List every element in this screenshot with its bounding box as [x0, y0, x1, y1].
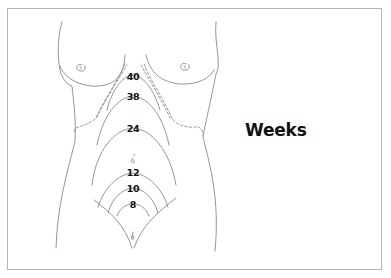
torso-illustration: [0, 0, 391, 278]
breast-right: [146, 55, 214, 84]
week-label-8: 8: [130, 200, 136, 210]
torso-right-outline: [203, 22, 218, 251]
week-label-38: 38: [127, 92, 140, 102]
nipple-left-icon: [77, 64, 86, 71]
torso-left-outline: [56, 22, 75, 248]
week-label-12: 12: [127, 168, 140, 178]
umbilicus-icon: [132, 154, 135, 163]
week-label-40: 40: [127, 72, 140, 82]
week-label-10: 10: [127, 184, 140, 194]
pelvic-line-left: [94, 200, 132, 248]
weeks-title: Weeks: [245, 120, 307, 140]
pubic-symphysis: [131, 232, 134, 240]
nipple-right-icon: [181, 63, 190, 70]
breast-left: [60, 55, 125, 86]
week-label-24: 24: [127, 124, 140, 134]
ribcage-margin-dashed-right: [144, 64, 203, 135]
ribcage-margin-dashed: [75, 64, 125, 132]
